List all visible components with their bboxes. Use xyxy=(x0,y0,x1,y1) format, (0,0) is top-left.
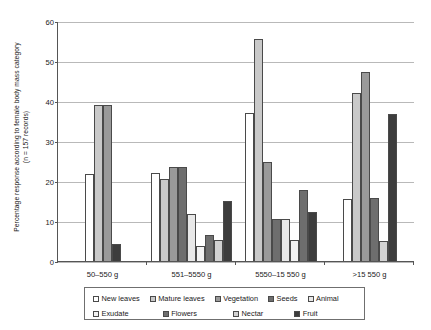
legend-item-seeds[interactable]: Seeds xyxy=(268,294,297,303)
chart-legend: New leavesMature leavesVegetationSeedsAn… xyxy=(84,287,365,320)
legend-label: Nectar xyxy=(242,309,264,318)
y-axis-tick-label: 60 xyxy=(28,18,54,27)
legend-item-new-leaves[interactable]: New leaves xyxy=(93,294,140,303)
x-axis-tick-label: 5550–15 550 g xyxy=(236,270,325,279)
legend-item-animal[interactable]: Animal xyxy=(308,294,339,303)
x-tick-mark xyxy=(324,261,325,265)
bar-group: >15 550 g xyxy=(325,22,414,261)
legend-item-vegetation[interactable]: Vegetation xyxy=(215,294,258,303)
legend-row-2: ExudateFlowersNectarFruit xyxy=(85,306,364,321)
bar-new-leaves xyxy=(343,199,352,261)
bar-fruit xyxy=(308,212,317,261)
bar-fruit xyxy=(112,244,121,261)
gridline xyxy=(58,262,414,263)
legend-label: Animal xyxy=(316,294,339,303)
legend-swatch-icon xyxy=(268,296,274,302)
legend-label: Seeds xyxy=(277,294,298,303)
legend-item-nectar[interactable]: Nectar xyxy=(233,309,263,318)
legend-swatch-icon xyxy=(215,296,221,302)
bar-mature-leaves xyxy=(160,179,169,261)
bar-mature-leaves xyxy=(352,93,361,261)
bar-new-leaves xyxy=(151,173,160,261)
bar-new-leaves xyxy=(85,174,94,261)
y-axis-tick-label: 50 xyxy=(28,58,54,67)
bar-vegetation xyxy=(263,162,272,261)
bar-exudate xyxy=(290,240,299,261)
x-tick-mark xyxy=(235,261,236,265)
legend-swatch-icon xyxy=(93,311,99,317)
y-axis-tick-label: 0 xyxy=(28,258,54,267)
x-tick-mark xyxy=(413,261,414,265)
bar-fruit xyxy=(388,114,397,261)
y-axis-title-line1: Percentage response according to female … xyxy=(13,42,20,231)
legend-label: New leaves xyxy=(102,294,140,303)
legend-label: Mature leaves xyxy=(158,294,204,303)
bar-vegetation xyxy=(103,105,112,261)
legend-label: Fruit xyxy=(303,309,318,318)
chart-container: Percentage response according to female … xyxy=(0,0,431,330)
legend-item-fruit[interactable]: Fruit xyxy=(294,309,317,318)
bar-exudate xyxy=(196,246,205,261)
bar-animal xyxy=(187,214,196,261)
legend-swatch-icon xyxy=(308,296,314,302)
bar-groups: 50–550 g551–5550 g5550–15 550 g>15 550 g xyxy=(58,22,414,261)
bar-animal xyxy=(281,219,290,261)
bar-nectar xyxy=(214,240,223,261)
legend-swatch-icon xyxy=(163,311,169,317)
bar-fruit xyxy=(223,201,232,261)
bar-seeds xyxy=(272,219,281,261)
bar-new-leaves xyxy=(245,113,254,261)
bar-nectar xyxy=(379,241,388,261)
bar-group: 50–550 g xyxy=(58,22,147,261)
legend-swatch-icon xyxy=(294,311,300,317)
y-tick-mark xyxy=(55,262,58,263)
legend-label: Flowers xyxy=(171,309,197,318)
x-axis-tick-label: 551–5550 g xyxy=(147,270,236,279)
legend-row-1: New leavesMature leavesVegetationSeedsAn… xyxy=(85,291,364,306)
bar-seeds xyxy=(370,198,379,261)
y-axis-tick-label: 10 xyxy=(28,218,54,227)
legend-item-exudate[interactable]: Exudate xyxy=(93,309,129,318)
bar-flowers xyxy=(299,190,308,261)
legend-swatch-icon xyxy=(233,311,239,317)
legend-swatch-icon xyxy=(150,296,156,302)
x-axis-tick-label: >15 550 g xyxy=(325,270,414,279)
y-axis-tick-label: 20 xyxy=(28,178,54,187)
bar-mature-leaves xyxy=(94,105,103,261)
bar-group: 551–5550 g xyxy=(147,22,236,261)
bar-vegetation xyxy=(169,167,178,261)
legend-item-mature-leaves[interactable]: Mature leaves xyxy=(150,294,205,303)
plot-area: 0102030405060 50–550 g551–5550 g5550–15 … xyxy=(57,22,414,262)
bar-flowers xyxy=(205,235,214,261)
legend-item-flowers[interactable]: Flowers xyxy=(163,309,197,318)
bar-vegetation xyxy=(361,72,370,261)
legend-label: Vegetation xyxy=(223,294,258,303)
legend-label: Exudate xyxy=(102,309,129,318)
x-tick-mark xyxy=(146,261,147,265)
bar-mature-leaves xyxy=(254,39,263,261)
y-axis-tick-label: 40 xyxy=(28,98,54,107)
x-axis-tick-label: 50–550 g xyxy=(58,270,147,279)
bar-group: 5550–15 550 g xyxy=(236,22,325,261)
bar-seeds xyxy=(178,167,187,261)
legend-swatch-icon xyxy=(93,296,99,302)
y-axis-tick-label: 30 xyxy=(28,138,54,147)
